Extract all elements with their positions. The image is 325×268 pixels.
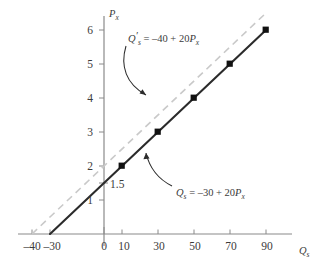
annotation-arrow-supply (143, 153, 172, 186)
y-axis-title-sub: x (114, 13, 119, 22)
y-axis-title: Px (108, 8, 119, 22)
x-tick-label-0: 0 (101, 240, 107, 252)
shifted-supply-eq-rest: = –40 + 20 (141, 33, 190, 44)
x-axis-title: Qs (299, 245, 310, 259)
shifted-supply-curve-dashed (32, 13, 266, 234)
x-tick-label--30: –30 (42, 240, 61, 252)
y-tick-label-2: 2 (87, 160, 93, 172)
x-tick-label-50: 50 (189, 240, 201, 252)
data-point-70-5 (227, 61, 233, 67)
y-axis-tick-labels: 1 2 3 4 5 6 1.5 (87, 24, 124, 206)
x-axis-tick-labels: –40 –30 0 10 30 50 70 90 (22, 240, 273, 252)
shifted-supply-eq-psub: x (195, 38, 200, 47)
x-axis-title-sub: s (307, 250, 310, 259)
x-tick-label-70: 70 (225, 240, 237, 252)
chart-figure: –40 –30 0 10 30 50 70 90 1 2 3 4 5 6 1.5… (0, 0, 325, 268)
supply-equation-label: Qs = –30 + 20Px (176, 187, 246, 201)
shifted-supply-equation-label: Q′s = –40 + 20Px (128, 30, 200, 47)
supply-eq-psub: x (241, 192, 246, 201)
x-tick-label-90: 90 (261, 240, 273, 252)
x-tick-label-30: 30 (153, 240, 165, 252)
x-tick-label-10: 10 (118, 240, 130, 252)
x-tick-label--40: –40 (22, 240, 41, 252)
data-point-10-2 (119, 163, 125, 169)
y-tick-label-1: 1 (87, 194, 93, 206)
y-tick-label-3: 3 (87, 126, 93, 138)
y-tick-label-4: 4 (87, 92, 93, 104)
data-point-50-4 (191, 95, 197, 101)
supply-curve-chart: –40 –30 0 10 30 50 70 90 1 2 3 4 5 6 1.5… (0, 0, 325, 268)
y-tick-label-5: 5 (87, 58, 93, 70)
data-point-30-3 (155, 129, 161, 135)
x-axis-ticks (32, 227, 266, 234)
y-value-label-1point5: 1.5 (110, 178, 125, 190)
data-point-90-6 (263, 27, 269, 33)
y-tick-label-6: 6 (87, 24, 93, 36)
annotation-arrow-shifted-supply (124, 46, 146, 95)
supply-eq-rest: = –30 + 20 (187, 187, 236, 198)
